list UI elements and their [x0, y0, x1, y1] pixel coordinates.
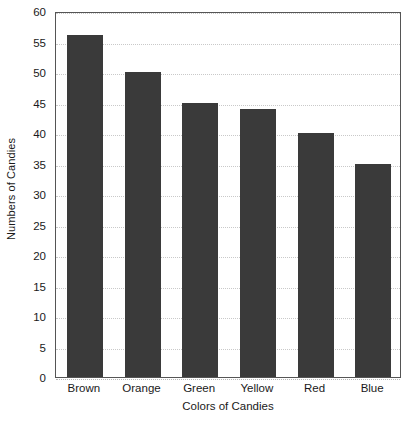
y-tick-label: 40 [33, 128, 46, 140]
y-tick-label: 10 [33, 311, 46, 323]
bars-layer [56, 13, 400, 377]
bar-chart: Numbers of Candies 051015202530354045505… [0, 0, 416, 422]
bar [240, 109, 276, 377]
plot-area [55, 12, 401, 378]
bar [125, 72, 161, 377]
y-tick-label: 60 [33, 6, 46, 18]
y-tick-label: 5 [40, 342, 46, 354]
gridline [56, 379, 400, 380]
bar [355, 164, 391, 378]
y-tick-label: 15 [33, 281, 46, 293]
x-tick-label: Blue [361, 382, 384, 394]
x-tick-label: Brown [68, 382, 101, 394]
y-tick-label: 25 [33, 220, 46, 232]
x-tick-label: Yellow [240, 382, 273, 394]
x-tick-label: Red [304, 382, 325, 394]
y-axis-tick-labels: 051015202530354045505560 [0, 0, 55, 390]
y-tick-label: 35 [33, 159, 46, 171]
x-tick-label: Orange [122, 382, 160, 394]
bar [67, 35, 103, 377]
x-axis-tick-labels: BrownOrangeGreenYellowRedBlue [55, 382, 401, 400]
y-tick-label: 20 [33, 250, 46, 262]
y-tick-label: 45 [33, 98, 46, 110]
y-tick-label: 30 [33, 189, 46, 201]
y-tick-label: 50 [33, 67, 46, 79]
y-tick-label: 55 [33, 37, 46, 49]
bar [182, 103, 218, 378]
x-tick-label: Green [183, 382, 215, 394]
bar [298, 133, 334, 377]
y-tick-label: 0 [40, 372, 46, 384]
x-axis-title: Colors of Candies [55, 400, 401, 412]
